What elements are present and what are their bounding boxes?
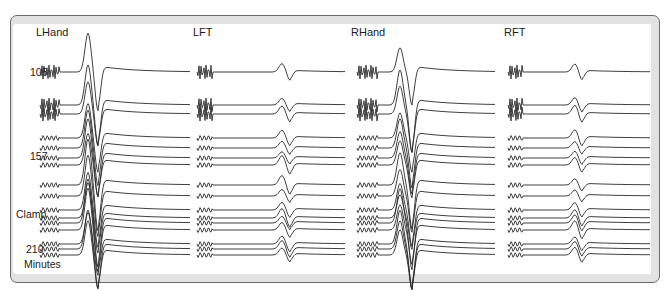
trace-rft [508, 142, 650, 154]
trace-lhand [40, 82, 190, 146]
trace-rft [508, 130, 650, 146]
trace-lhand [40, 183, 190, 253]
trace-lft [197, 209, 345, 228]
trace-rhand [357, 141, 495, 198]
trace-lft [197, 130, 345, 145]
trace-lft [197, 190, 345, 203]
trace-rhand [357, 119, 495, 188]
trace-lft [197, 248, 345, 262]
trace-lhand [40, 134, 190, 197]
trace-lhand [40, 33, 190, 111]
trace-lhand [40, 221, 190, 289]
trace-rhand [357, 48, 495, 105]
trace-rft [508, 98, 650, 112]
waveform-traces [0, 0, 668, 291]
trace-lft [197, 64, 345, 80]
trace-rhand [357, 230, 495, 289]
trace-rft [508, 203, 650, 217]
trace-rhand [357, 86, 495, 152]
trace-lft [197, 176, 345, 195]
trace-lhand [40, 155, 190, 236]
trace-lft [197, 156, 345, 174]
trace-rft [508, 179, 650, 191]
trace-lft [197, 152, 345, 164]
trace-lft [197, 223, 345, 238]
trace-rhand [357, 183, 495, 246]
trace-lft [197, 141, 345, 154]
trace-lhand [40, 188, 190, 272]
trace-lft [197, 203, 345, 218]
trace-rft [508, 64, 650, 80]
trace-rft [508, 190, 650, 202]
trace-rft [508, 106, 650, 123]
trace-lhand [40, 65, 190, 145]
trace-lhand [40, 110, 190, 186]
trace-lft [197, 98, 345, 112]
trace-rft [508, 151, 650, 164]
trace-lft [197, 106, 345, 122]
trace-rhand [357, 70, 495, 153]
